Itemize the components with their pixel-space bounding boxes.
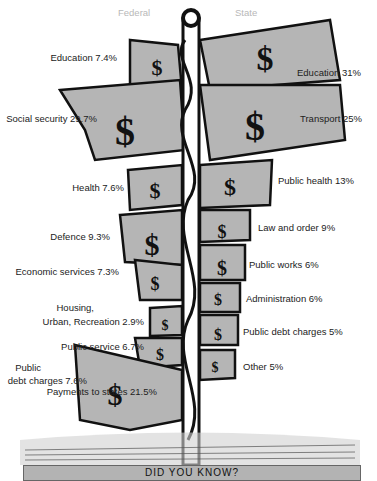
- state-debt-label: Public debt charges 5%: [243, 326, 343, 337]
- state-public-works-label: Public works 6%: [249, 259, 319, 270]
- flag-state-public-health: [200, 160, 272, 208]
- svg-text:$: $: [217, 257, 227, 279]
- federal-housing-label-1: Housing,: [57, 302, 95, 313]
- federal-public-debt-label-1: Public: [15, 362, 41, 373]
- state-public-health-label: Public health 13%: [278, 175, 354, 186]
- svg-text:$: $: [214, 326, 222, 343]
- state-admin-label: Administration 6%: [246, 293, 323, 304]
- did-you-know-banner: DID YOU KNOW?: [23, 465, 361, 481]
- federal-public-service-label: Public service 6.7%: [61, 341, 144, 352]
- svg-text:$: $: [151, 274, 160, 294]
- svg-text:$: $: [162, 318, 169, 333]
- svg-text:$: $: [152, 55, 163, 80]
- svg-text:$: $: [214, 291, 222, 308]
- svg-text:$: $: [224, 174, 236, 200]
- svg-text:$: $: [145, 228, 160, 261]
- svg-text:$: $: [115, 109, 135, 154]
- federal-economic-label: Economic services 7.3%: [16, 266, 119, 277]
- svg-text:$: $: [218, 222, 227, 242]
- state-education-label: Education 31%: [297, 67, 361, 78]
- svg-text:$: $: [245, 104, 265, 149]
- header-state: State: [235, 7, 257, 18]
- svg-text:$: $: [150, 178, 161, 203]
- pole-ring: [183, 10, 199, 26]
- federal-defence-label: Defence 9.3%: [50, 231, 110, 242]
- state-other-label: Other 5%: [243, 361, 283, 372]
- federal-social-security-label: Social security 29.7%: [6, 113, 97, 124]
- federal-public-debt-label-2: debt charges 7.6%: [8, 375, 87, 386]
- svg-text:$: $: [257, 40, 274, 77]
- svg-text:$: $: [156, 346, 164, 363]
- federal-payments-label: Payments to states 21.5%: [47, 386, 157, 397]
- state-transport-label: Transport 25%: [300, 113, 362, 124]
- svg-text:$: $: [212, 360, 219, 375]
- federal-housing-label-2: Urban, Recreation 2.9%: [43, 316, 144, 327]
- header-federal: Federal: [118, 7, 150, 18]
- federal-health-label: Health 7.6%: [72, 182, 124, 193]
- state-law-label: Law and order 9%: [258, 222, 335, 233]
- federal-education-label: Education 7.4%: [50, 52, 117, 63]
